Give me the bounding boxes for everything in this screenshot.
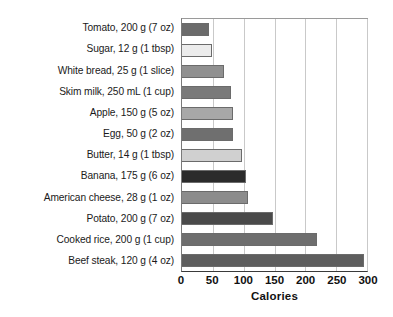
category-axis-labels: Tomato, 200 g (7 oz)Sugar, 12 g (1 tbsp)… [0,18,178,272]
x-tick-label: 50 [206,274,219,286]
bar-row [182,229,367,250]
x-tick-label: 200 [296,274,315,286]
bar [182,23,209,36]
category-label: Tomato, 200 g (7 oz) [0,18,178,39]
category-label: American cheese, 28 g (1 oz) [0,187,178,208]
bar [182,254,364,267]
x-tick-label: 300 [358,274,377,286]
category-label: Skim milk, 250 mL (1 cup) [0,82,178,103]
bar [182,107,233,120]
x-tick-label: 150 [265,274,284,286]
category-label: Potato, 200 g (7 oz) [0,209,178,230]
bar-row [182,208,367,229]
bar-row [182,19,367,40]
bar [182,149,242,162]
bar [182,170,246,183]
plot-area [181,18,368,272]
bar-chart: Tomato, 200 g (7 oz)Sugar, 12 g (1 tbsp)… [0,0,393,317]
bar-row [182,250,367,271]
category-label: Egg, 50 g (2 oz) [0,124,178,145]
bar [182,191,248,204]
category-label: Sugar, 12 g (1 tbsp) [0,39,178,60]
category-label: Apple, 150 g (5 oz) [0,103,178,124]
bar-row [182,61,367,82]
category-label: Cooked rice, 200 g (1 cup) [0,230,178,251]
bar-row [182,40,367,61]
category-label: Butter, 14 g (1 tbsp) [0,145,178,166]
bar [182,233,317,246]
category-label: White bread, 25 g (1 slice) [0,60,178,81]
bar [182,44,212,57]
bar-row [182,103,367,124]
x-tick-label: 100 [234,274,253,286]
x-tick-label: 0 [178,274,184,286]
category-label: Banana, 175 g (6 oz) [0,166,178,187]
bar [182,86,231,99]
bar [182,65,224,78]
x-axis-title: Calories [181,290,368,302]
bar-row [182,82,367,103]
bar-row [182,124,367,145]
category-label: Beef steak, 120 g (4 oz) [0,251,178,272]
bar-row [182,166,367,187]
bar [182,128,233,141]
x-axis-tick-labels: 050100150200250300 [181,274,368,290]
bar [182,212,273,225]
bar-row [182,145,367,166]
bar-row [182,187,367,208]
x-tick-label: 250 [327,274,346,286]
bars-layer [182,19,367,271]
gridline [367,19,368,271]
